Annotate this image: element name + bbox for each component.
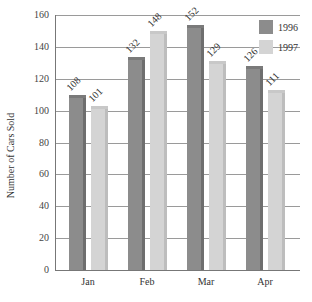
y-tick-label: 120 [25, 73, 49, 84]
bar-value-label: 132 [123, 36, 141, 54]
bar-value-label: 129 [204, 41, 222, 59]
legend-item-1996: 1996 [259, 20, 298, 34]
x-tick-label: Feb [127, 276, 167, 287]
y-tick-label: 40 [25, 200, 49, 211]
bar-side [260, 69, 263, 270]
y-tick-label: 0 [25, 264, 49, 275]
y-tick-label: 20 [25, 232, 49, 243]
legend-item-1997: 1997 [259, 40, 298, 54]
legend-label: 1996 [278, 22, 298, 33]
bar-value-label: 101 [86, 86, 104, 104]
bar-side [223, 64, 226, 270]
bar-1997-feb [150, 34, 167, 270]
gridline [55, 270, 300, 271]
bar-top [209, 61, 226, 64]
bar-top [150, 31, 167, 34]
bar-top [268, 90, 285, 93]
bar-value-label: 108 [64, 74, 82, 92]
bar-1996-jan [69, 98, 86, 270]
y-tick-label: 60 [25, 168, 49, 179]
bar-side [105, 109, 108, 270]
legend-swatch [259, 20, 273, 34]
y-axis-label: Number of Cars Sold [5, 113, 16, 198]
bar-value-label: 111 [263, 70, 281, 88]
y-tick-label: 160 [25, 9, 49, 20]
bar-top [69, 95, 86, 98]
y-axis [55, 15, 56, 270]
bar-value-label: 148 [145, 11, 163, 29]
bar-value-label: 126 [241, 46, 259, 64]
bar-1997-apr [268, 93, 285, 270]
y-tick-label: 140 [25, 41, 49, 52]
y-tick-label: 100 [25, 105, 49, 116]
bar-1996-feb [128, 60, 145, 270]
bar-side [83, 98, 86, 270]
bar-side [201, 28, 204, 270]
y-tick-label: 80 [25, 137, 49, 148]
bar-side [282, 93, 285, 270]
legend-label: 1997 [278, 42, 298, 53]
bar-top [128, 57, 145, 60]
bar-chart: 020406080100120140160Number of Cars Sold… [0, 0, 312, 302]
x-tick-label: Apr [245, 276, 285, 287]
bar-1996-mar [187, 28, 204, 270]
bar-side [142, 60, 145, 270]
gridline [55, 15, 300, 16]
bar-top [91, 106, 108, 109]
x-tick-label: Jan [68, 276, 108, 287]
x-tick-label: Mar [186, 276, 226, 287]
legend-swatch [259, 40, 273, 54]
bar-value-label: 152 [182, 4, 200, 22]
bar-side [164, 34, 167, 270]
bar-1996-apr [246, 69, 263, 270]
bar-top [246, 66, 263, 69]
bar-1997-jan [91, 109, 108, 270]
bar-top [187, 25, 204, 28]
bar-1997-mar [209, 64, 226, 270]
